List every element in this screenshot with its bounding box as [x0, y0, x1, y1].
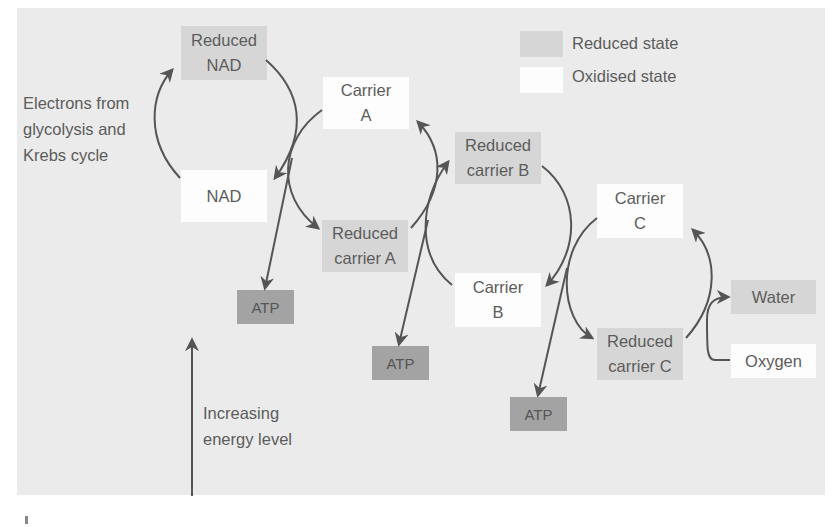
- node-reduced-carrier-a: Reduced carrier A: [322, 220, 408, 272]
- node-reduced-nad: Reduced NAD: [181, 26, 267, 80]
- legend-label-oxidised: Oxidised state: [572, 67, 677, 86]
- node-atp-1: ATP: [237, 290, 294, 324]
- node-carrier-a: Carrier A: [323, 77, 409, 129]
- legend-swatch-reduced: [520, 31, 563, 57]
- energy-level-label: Increasing energy level: [203, 400, 292, 452]
- node-atp-2: ATP: [372, 346, 429, 380]
- node-reduced-carrier-b: Reduced carrier B: [455, 132, 541, 184]
- legend-label-reduced: Reduced state: [572, 34, 678, 53]
- footer-mark: [25, 516, 28, 524]
- node-nad: NAD: [181, 170, 267, 222]
- node-oxygen: Oxygen: [731, 344, 816, 378]
- node-atp-3: ATP: [510, 397, 567, 431]
- electrons-source-label: Electrons from glycolysis and Krebs cycl…: [23, 90, 129, 168]
- node-reduced-carrier-c: Reduced carrier C: [597, 328, 683, 380]
- node-carrier-b: Carrier B: [455, 273, 541, 327]
- legend-swatch-oxidised: [520, 67, 563, 93]
- node-carrier-c: Carrier C: [597, 184, 683, 238]
- diagram-panel: [17, 8, 825, 495]
- node-water: Water: [731, 280, 816, 314]
